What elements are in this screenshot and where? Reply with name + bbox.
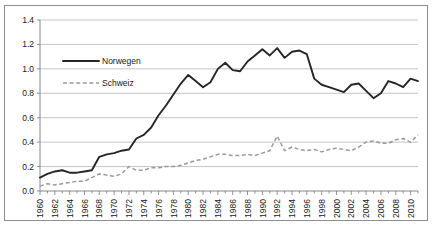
y-axis-label: 1.2 — [22, 39, 34, 49]
x-axis-label: 1986 — [228, 199, 238, 218]
x-axis-label: 1960 — [35, 199, 45, 218]
y-axis-label: 1.0 — [22, 64, 34, 74]
y-axis-label: 1.4 — [22, 15, 34, 25]
y-axis-label: 0.4 — [22, 137, 34, 147]
x-axis-label: 2002 — [346, 199, 356, 218]
x-axis-label: 1968 — [94, 199, 104, 218]
x-axis-label: 2004 — [361, 199, 371, 218]
x-axis-label: 1964 — [65, 199, 75, 218]
chart-frame: 1.41.21.00.80.60.40.20.01960196219641966… — [4, 5, 428, 221]
x-axis-label: 1972 — [124, 199, 134, 218]
y-axis-label: 0.8 — [22, 88, 34, 98]
y-axis-label: 0.2 — [22, 162, 34, 172]
x-axis-label: 2010 — [406, 199, 416, 218]
y-axis-label: 0.6 — [22, 113, 34, 123]
series-line-norwegen — [40, 48, 418, 177]
x-axis-label: 1994 — [287, 199, 297, 218]
legend-label-norwegen: Norwegen — [102, 56, 141, 66]
x-axis-label: 2000 — [332, 199, 342, 218]
x-axis-label: 1996 — [302, 199, 312, 218]
x-axis-label: 1992 — [272, 199, 282, 218]
x-axis-label: 1966 — [80, 199, 90, 218]
x-axis-label: 1978 — [169, 199, 179, 218]
x-axis-label: 1982 — [198, 199, 208, 218]
x-axis-label: 1990 — [258, 199, 268, 218]
x-axis-label: 1980 — [183, 199, 193, 218]
x-axis-label: 1974 — [139, 199, 149, 218]
legend-label-schweiz: Schweiz — [102, 78, 134, 88]
y-axis-label: 0.0 — [22, 186, 34, 196]
x-axis-label: 1998 — [317, 199, 327, 218]
line-chart: 1.41.21.00.80.60.40.20.01960196219641966… — [5, 6, 427, 220]
x-axis-label: 1970 — [109, 199, 119, 218]
x-axis-label: 1984 — [213, 199, 223, 218]
x-axis-label: 1962 — [50, 199, 60, 218]
x-axis-label: 2008 — [391, 199, 401, 218]
x-axis-label: 2006 — [376, 199, 386, 218]
x-axis-label: 1976 — [154, 199, 164, 218]
x-axis-label: 1988 — [243, 199, 253, 218]
